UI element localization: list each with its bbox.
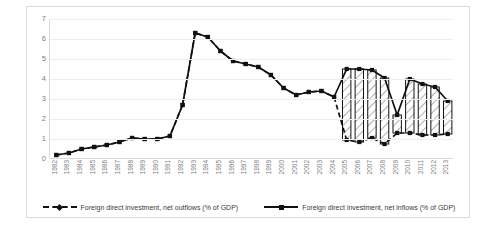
x-axis-tick-label: 1986 xyxy=(102,160,109,174)
x-axis-tick-label: 1985 xyxy=(90,160,97,174)
x-axis-tick-label: 2004 xyxy=(330,160,337,174)
x-axis-tick-label: 1989 xyxy=(140,160,147,174)
x-axis-tick-label: 1995 xyxy=(216,160,223,174)
x-axis-tick-label: 2010 xyxy=(405,160,412,174)
dashed-line-diamond-marker-icon xyxy=(43,203,77,212)
x-axis-tick-label: 1996 xyxy=(229,160,236,174)
y-axis-tick-label: 6 xyxy=(42,35,46,43)
x-axis-tick-label: 2011 xyxy=(418,160,425,174)
x-axis-tick-label: 2002 xyxy=(304,160,311,174)
y-axis-tick-label: 1 xyxy=(42,135,46,143)
x-axis-tick-label: 2012 xyxy=(431,160,438,174)
x-axis-tick-label: 1983 xyxy=(64,160,71,174)
solid-line-square-marker-icon xyxy=(264,203,298,212)
x-axis-tick-label: 2008 xyxy=(380,160,387,174)
gridline xyxy=(50,39,453,40)
legend-entry-outflows[interactable]: Foreign direct investment, net outflows … xyxy=(43,203,239,212)
y-axis-tick-label: 5 xyxy=(42,55,46,63)
x-axis-tick-label: 1984 xyxy=(77,160,84,174)
y-axis-tick-label: 3 xyxy=(42,95,46,103)
x-axis-tick-label: 1994 xyxy=(203,160,210,174)
gridline xyxy=(50,79,453,80)
legend-label-inflows: Foreign direct investment, net inflows (… xyxy=(302,204,455,211)
y-axis-tick-label: 7 xyxy=(42,15,46,23)
y-axis-tick-label: 0 xyxy=(42,155,46,163)
gridline xyxy=(50,19,453,20)
x-axis-tick-label: 2000 xyxy=(279,160,286,174)
x-axis-tick-label: 1991 xyxy=(165,160,172,174)
x-axis-tick-label: 1997 xyxy=(241,160,248,174)
x-axis-tick-label: 1993 xyxy=(191,160,198,174)
x-axis-tick-label: 2006 xyxy=(355,160,362,174)
gridline xyxy=(50,139,453,140)
x-axis-tick-label: 1982 xyxy=(52,160,59,174)
plot-area: 01234567 xyxy=(49,19,453,159)
x-axis-tick-label: 2005 xyxy=(342,160,349,174)
chart-container: 01234567 1982198319841985198619871988198… xyxy=(26,6,470,218)
series-layer xyxy=(50,19,454,159)
x-axis-tick-label: 1999 xyxy=(266,160,273,174)
gridline xyxy=(50,119,453,120)
x-axis-tick-label: 2001 xyxy=(292,160,299,174)
x-axis-tick-label: 1988 xyxy=(128,160,135,174)
x-axis-tick-label: 2009 xyxy=(393,160,400,174)
y-axis-tick-label: 2 xyxy=(42,115,46,123)
legend-entry-inflows[interactable]: Foreign direct investment, net inflows (… xyxy=(264,203,455,212)
x-axis-tick-label: 2003 xyxy=(317,160,324,174)
x-axis-tick-label: 1998 xyxy=(254,160,261,174)
legend-label-outflows: Foreign direct investment, net outflows … xyxy=(81,204,239,211)
x-axis-tick-label: 1992 xyxy=(178,160,185,174)
plot-wrapper: 01234567 1982198319841985198619871988198… xyxy=(27,7,471,219)
x-axis-tick-label: 1987 xyxy=(115,160,122,174)
x-axis-tick-label: 2007 xyxy=(367,160,374,174)
y-axis-tick-label: 4 xyxy=(42,75,46,83)
gridline xyxy=(50,99,453,100)
x-axis-labels: 1982198319841985198619871988198919901991… xyxy=(49,160,453,196)
chart-legend: Foreign direct investment, net outflows … xyxy=(27,197,471,217)
x-axis-tick-label: 2013 xyxy=(443,160,450,174)
x-axis-tick-label: 1990 xyxy=(153,160,160,174)
gridline xyxy=(50,59,453,60)
